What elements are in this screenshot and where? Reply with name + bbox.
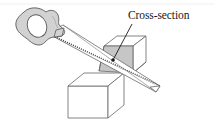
lower-cube — [68, 73, 124, 118]
cross-section-figure: Cross-section — [0, 0, 215, 125]
lower-cube-front-face — [68, 86, 108, 118]
cross-section-label: Cross-section — [128, 9, 190, 21]
saw-handle — [16, 8, 65, 45]
leader-endpoint-dot — [111, 58, 115, 62]
figure-canvas: Cross-section — [0, 0, 215, 125]
